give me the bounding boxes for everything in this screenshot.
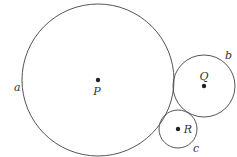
- circle-a-group: a P: [14, 4, 174, 156]
- center-label-p: P: [92, 85, 101, 98]
- circle-label-a: a: [14, 81, 21, 94]
- center-label-q: Q: [199, 70, 208, 83]
- circle-label-c: c: [193, 142, 199, 155]
- center-dot-p: [96, 78, 100, 82]
- center-label-r: R: [183, 123, 192, 136]
- circle-b-group: b Q: [173, 49, 235, 117]
- tangent-circles-diagram: a P b Q c R: [0, 0, 237, 157]
- circle-label-b: b: [225, 49, 232, 62]
- center-dot-q: [202, 84, 206, 88]
- center-dot-r: [176, 127, 180, 131]
